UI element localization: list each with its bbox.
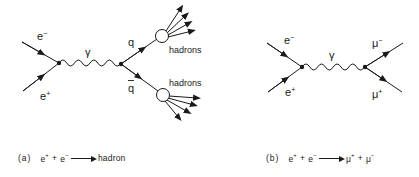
label-electron-a: e−	[37, 30, 47, 42]
muon-plus-line	[365, 67, 402, 92]
label-quark: q	[128, 36, 134, 48]
electron-line-a	[22, 42, 59, 63]
caption-b-lhs1: e+	[288, 153, 297, 164]
vertex-left-a	[57, 61, 61, 65]
label-photon-a: γ	[85, 46, 91, 58]
label-hadrons-top: hadrons	[169, 45, 202, 55]
label-hadrons-bottom: hadrons	[169, 78, 202, 88]
antiquark-line	[121, 64, 158, 91]
caption-tag-a: (a)	[18, 153, 31, 163]
electron-line-b	[267, 43, 302, 67]
label-positron-a: e+	[40, 90, 50, 102]
hadron-jet-top	[156, 8, 193, 43]
caption-b-rhs2: μ−	[366, 153, 375, 164]
caption-b-rhs1: μ+	[346, 153, 355, 164]
muon-minus-line	[365, 43, 403, 67]
caption-a: (a) e+ + e− hadron	[18, 153, 126, 164]
caption-a-plus: +	[52, 153, 57, 163]
label-antiquark: q	[128, 82, 134, 94]
caption-b-plus2: +	[358, 153, 363, 163]
diagram-a	[22, 8, 197, 118]
caption-a-rhs: hadron	[98, 153, 126, 163]
caption-a-lhs1: e+	[40, 153, 49, 164]
label-positron-b: e+	[285, 86, 295, 98]
quark-line	[121, 39, 157, 64]
hadron-jet-bottom	[157, 89, 198, 119]
label-muon-plus: μ+	[372, 88, 382, 100]
vertex-left-b	[300, 65, 304, 69]
feynman-diagrams: e− e+ γ q q hadrons hadrons e− e	[0, 0, 419, 177]
diagram-b	[267, 43, 403, 92]
label-muon-minus: μ−	[372, 37, 382, 49]
labels-a: e− e+ γ q q hadrons hadrons	[37, 30, 202, 102]
positron-line-a	[23, 63, 59, 91]
caption-b-lhs2: e−	[308, 153, 317, 164]
label-electron-b: e−	[284, 34, 294, 46]
reaction-arrow-icon	[319, 155, 345, 161]
photon-line-a	[59, 60, 121, 66]
caption-tag-b: (b)	[266, 153, 279, 163]
caption-a-lhs2: e−	[60, 153, 69, 164]
caption-b-plus1: +	[300, 153, 305, 163]
photon-line-b	[302, 64, 364, 70]
reaction-arrow-icon	[71, 155, 97, 161]
caption-b: (b) e+ + e− μ+ + μ−	[266, 153, 375, 164]
label-photon-b: γ	[329, 49, 335, 61]
